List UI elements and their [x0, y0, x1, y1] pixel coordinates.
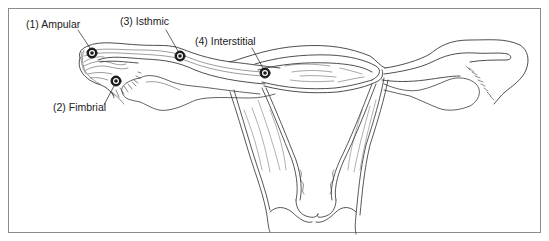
ampular-leader-line [78, 30, 90, 48]
uterine-walls [230, 78, 388, 234]
isthmic-site-marker [175, 51, 185, 61]
isthmic-leader-line [166, 30, 178, 51]
uterus-tubes-illustration [0, 0, 549, 241]
label-fimbrial: (2) Fimbrial [53, 102, 106, 113]
uterus-fundus [230, 45, 385, 92]
interstitial-site-marker [260, 68, 270, 78]
ampular-site-marker [87, 48, 97, 58]
label-interstitial: (4) Interstitial [195, 36, 256, 47]
label-ampular: (1) Ampular [26, 19, 80, 30]
left-ovary [122, 75, 275, 110]
label-isthmic: (3) Isthmic [120, 16, 169, 27]
implantation-sites [87, 48, 270, 86]
fimbrial-site-marker [111, 76, 121, 86]
right-ovary [384, 78, 479, 110]
